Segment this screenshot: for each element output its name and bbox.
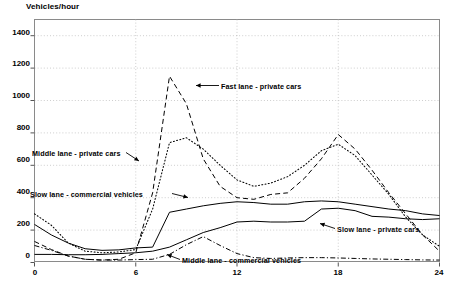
annotation-leaders: [126, 83, 335, 259]
series-line-1: [35, 138, 440, 253]
axis-ticks: [31, 36, 440, 267]
gridlines: [35, 20, 440, 263]
chart-canvas: [0, 0, 451, 288]
chart-root: Vehicles/hour 1400 1200 1000 800 600 400…: [0, 0, 451, 288]
